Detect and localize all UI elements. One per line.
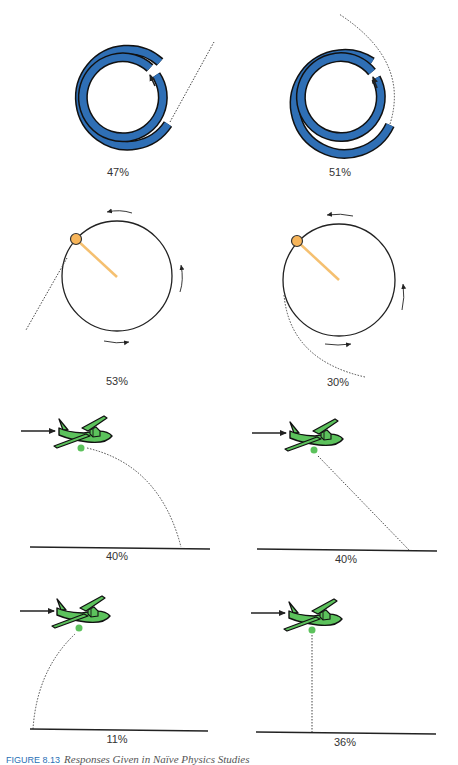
trajectory-straight	[318, 456, 409, 550]
airplane-icon	[285, 419, 343, 451]
airplane-icon	[54, 416, 112, 448]
trajectory-straight	[170, 42, 214, 122]
string	[77, 240, 117, 277]
spiral-tube-panel-1	[80, 42, 214, 146]
spiral-tube-icon	[80, 50, 168, 146]
rotation-arrow-right	[402, 284, 404, 310]
dropped-object-icon	[78, 445, 85, 452]
rotation-arrow-top	[107, 211, 132, 213]
ball-string-panel-2	[283, 214, 404, 377]
ground-line	[30, 729, 208, 731]
plane-drop-panel-1	[21, 416, 210, 549]
trajectory-curved	[284, 295, 365, 377]
percent-label-panel-6: 40%	[335, 553, 357, 565]
airplane-icon	[284, 599, 342, 631]
percent-label-panel-1: 47%	[107, 166, 129, 178]
string	[298, 242, 339, 280]
dropped-object-icon	[311, 447, 318, 454]
dropped-object-icon	[309, 627, 316, 634]
caption-label: FIGURE 8.13	[6, 755, 60, 765]
dropped-object-icon	[76, 625, 83, 632]
trajectory-curved	[33, 634, 75, 729]
plane-drop-panel-2	[252, 419, 437, 551]
ball-string-panel-1	[26, 211, 182, 343]
ball-icon	[292, 236, 303, 247]
percent-label-panel-2: 51%	[329, 166, 351, 178]
percent-label-panel-4: 30%	[327, 376, 349, 388]
percent-label-panel-7: 11%	[106, 733, 127, 745]
rotation-arrow-right	[180, 265, 182, 292]
percent-label-panel-5: 40%	[106, 550, 128, 562]
caption-title: Responses Given in Naïve Physics Studies	[64, 753, 249, 765]
plane-drop-panel-3	[20, 596, 208, 731]
rotation-arrow-bottom	[104, 341, 129, 343]
ground-line	[256, 732, 436, 734]
plane-drop-panel-4	[251, 599, 436, 734]
spiral-tube-panel-2	[295, 14, 395, 154]
ground-line	[257, 549, 437, 551]
airplane-icon	[52, 596, 110, 628]
ground-line	[30, 547, 210, 549]
ball-icon	[71, 234, 82, 245]
percent-label-panel-3: 53%	[106, 375, 128, 387]
figure-caption: FIGURE 8.13Responses Given in Naïve Phys…	[6, 753, 249, 765]
trajectory-straight	[26, 258, 67, 330]
spiral-tube-icon	[295, 54, 390, 154]
rotation-arrow-top	[327, 214, 353, 216]
rotation-arrow-bottom	[325, 344, 351, 345]
percent-label-panel-8: 36%	[334, 736, 356, 748]
trajectory-curved	[87, 448, 181, 547]
